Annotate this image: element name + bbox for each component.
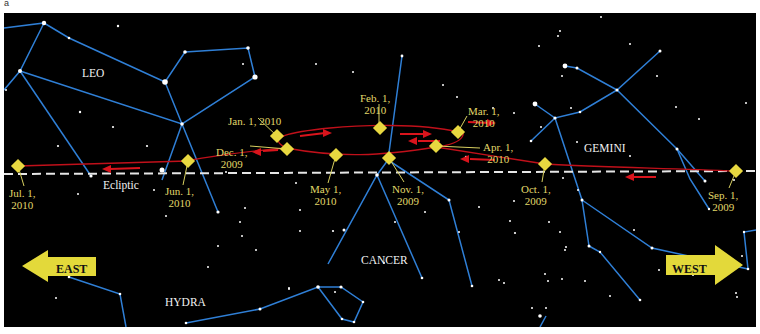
east-label: EAST: [56, 262, 87, 277]
date-label-jan-2010: Jan. 1, 2010: [228, 115, 281, 127]
hydra-lines: [69, 277, 126, 327]
date-label-dec-2009: Dec. 1,2009: [216, 146, 247, 170]
date-label-nov-2009: Nov. 1,2009: [392, 183, 424, 207]
constellation-lines: [4, 23, 756, 327]
date-label-feb-2010: Feb. 1,2010: [360, 92, 390, 116]
ecliptic-label: Ecliptic: [103, 179, 139, 191]
hydra-label: HYDRA: [165, 296, 206, 308]
stars: [5, 16, 749, 324]
gemini-label: GEMINI: [584, 142, 626, 154]
star-chart: LEO GEMINI CANCER HYDRA Ecliptic EAST WE…: [4, 13, 756, 327]
gemini-lines: [565, 51, 660, 90]
date-label-sep-2009: Sep. 1,2009: [708, 189, 738, 213]
cancer-label: CANCER: [361, 254, 408, 266]
date-label-jul-2010: Jul. 1,2010: [9, 187, 36, 211]
retrograde-path: [18, 125, 736, 171]
date-label-oct-2009: Oct. 1,2009: [521, 183, 551, 207]
chart-graphics: [4, 13, 756, 327]
panel-letter: a: [4, 0, 9, 8]
date-label-may-2010: May 1,2010: [310, 183, 341, 207]
leo-lines: [4, 23, 44, 90]
date-label-apr-2010: Apr. 1,2010: [483, 141, 513, 165]
date-label-jun-2010: Jun. 1,2010: [165, 185, 194, 209]
west-label: WEST: [672, 262, 707, 277]
leo-label: LEO: [82, 67, 104, 79]
date-label-mar-2010: Mar. 1,2010: [468, 105, 499, 129]
